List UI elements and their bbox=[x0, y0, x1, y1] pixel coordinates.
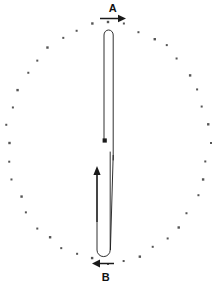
field-dot bbox=[27, 72, 29, 74]
field-dot bbox=[189, 74, 191, 76]
dot-ring-group bbox=[5, 21, 212, 265]
field-dot bbox=[204, 160, 206, 162]
field-dot bbox=[107, 21, 109, 23]
field-dot bbox=[76, 253, 78, 255]
field-dot bbox=[60, 247, 62, 249]
label-a: A bbox=[103, 3, 123, 14]
field-dot bbox=[137, 31, 139, 33]
hairpin-loops-group bbox=[97, 30, 113, 257]
field-dot bbox=[207, 123, 209, 125]
field-dot bbox=[176, 58, 178, 60]
field-dot bbox=[16, 89, 18, 91]
field-dot bbox=[154, 38, 156, 40]
arrow-inner-up bbox=[93, 166, 100, 222]
field-dot bbox=[139, 255, 141, 257]
field-dot bbox=[210, 142, 212, 144]
lower-hairpin-loop bbox=[97, 152, 110, 257]
field-dot bbox=[8, 142, 10, 144]
field-dot bbox=[123, 22, 125, 24]
figure-canvas: A B bbox=[0, 0, 216, 289]
arrow-b bbox=[92, 260, 114, 268]
field-dot bbox=[49, 236, 51, 238]
field-dot bbox=[196, 88, 198, 90]
field-dot bbox=[178, 226, 180, 228]
field-dot bbox=[123, 260, 125, 262]
field-dot bbox=[185, 212, 187, 214]
loop-connecting-line bbox=[110, 155, 113, 250]
field-dot bbox=[36, 228, 38, 230]
field-dot bbox=[36, 60, 38, 62]
field-dot bbox=[167, 237, 169, 239]
field-dot bbox=[25, 211, 27, 213]
field-dot bbox=[76, 30, 78, 32]
label-b: B bbox=[96, 272, 116, 283]
arrow-a bbox=[100, 15, 126, 22]
field-dot bbox=[166, 44, 168, 46]
field-dot bbox=[201, 106, 203, 108]
field-dot bbox=[8, 161, 10, 163]
field-dot bbox=[12, 106, 14, 108]
field-dot bbox=[197, 194, 199, 196]
diagram-svg bbox=[0, 0, 216, 289]
field-dot bbox=[202, 178, 204, 180]
field-dot bbox=[62, 37, 64, 39]
arrow-inner-down bbox=[103, 138, 107, 142]
field-dot bbox=[91, 257, 93, 259]
field-dot bbox=[46, 46, 48, 48]
field-dot bbox=[152, 246, 154, 248]
field-dot bbox=[20, 195, 22, 197]
field-dot bbox=[91, 22, 93, 24]
field-dot bbox=[10, 178, 12, 180]
field-dot bbox=[5, 124, 7, 126]
